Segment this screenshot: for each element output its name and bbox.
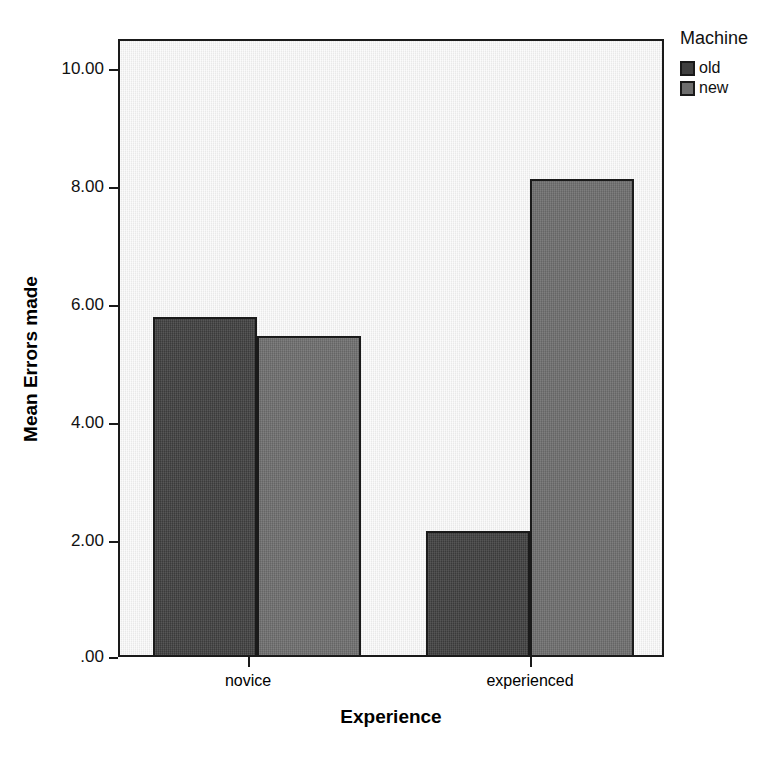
y-tick-label-10: 10.00 (14, 59, 104, 79)
legend-title: Machine (680, 28, 779, 49)
legend: Machine old new (680, 28, 779, 99)
x-tick-label-novice: novice (148, 672, 348, 690)
legend-item-old[interactable]: old (680, 59, 779, 77)
bar-texture (155, 319, 255, 655)
y-tick-mark (109, 541, 118, 543)
bar-texture (428, 533, 528, 655)
y-tick-mark (109, 69, 118, 71)
y-tick-mark (109, 305, 118, 307)
bar-texture (259, 338, 359, 655)
legend-swatch-new (680, 81, 695, 96)
legend-label-new: new (699, 79, 728, 97)
legend-label-old: old (699, 59, 720, 77)
x-tick-label-experienced: experienced (430, 672, 630, 690)
legend-item-new[interactable]: new (680, 79, 779, 97)
bar-novice-old (153, 317, 257, 657)
y-tick-mark (109, 657, 118, 659)
legend-swatch-old (680, 61, 695, 76)
bar-chart: 10.00 8.00 6.00 4.00 2.00 .00 Mean Error… (0, 0, 779, 761)
plot-area (118, 39, 664, 657)
y-tick-label-8: 8.00 (14, 177, 104, 197)
x-axis-title: Experience (118, 706, 664, 728)
bar-experienced-old (426, 531, 530, 657)
y-tick-label-0: .00 (14, 647, 104, 667)
y-axis-title: Mean Errors made (20, 269, 42, 449)
bar-novice-new (257, 336, 361, 657)
x-tick-mark (248, 657, 250, 667)
bar-texture (532, 181, 632, 655)
y-tick-mark (109, 187, 118, 189)
x-tick-mark (530, 657, 532, 667)
bar-experienced-new (530, 179, 634, 657)
y-tick-mark (109, 423, 118, 425)
y-tick-label-2: 2.00 (14, 531, 104, 551)
